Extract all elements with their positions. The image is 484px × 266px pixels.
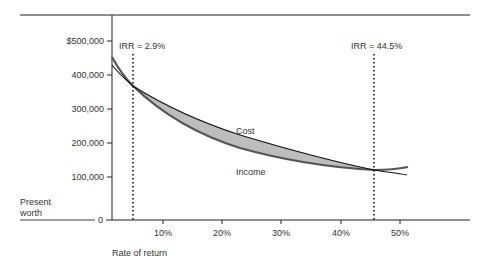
y-tick-label: 400,000 <box>71 70 104 80</box>
x-tick-label: 50% <box>391 228 409 238</box>
irr-low-label: IRR = 2.9% <box>119 41 165 51</box>
x-tick-label: 20% <box>213 228 231 238</box>
income-label: Income <box>236 167 266 177</box>
x-tick-label: 30% <box>272 228 290 238</box>
y-axis-label-line1: Present <box>20 197 52 207</box>
x-ticks <box>163 220 400 224</box>
x-axis-label: Rate of return <box>112 248 167 258</box>
cost-label: Cost <box>236 126 255 136</box>
irr-high-label: IRR = 44.5% <box>351 41 402 51</box>
x-tick-label: 10% <box>154 228 172 238</box>
y-tick-label: 300,000 <box>71 104 104 114</box>
irr-chart: $500,000 400,000 300,000 200,000 100,000… <box>0 0 484 266</box>
y-tick-label: $500,000 <box>66 36 104 46</box>
cost-curve <box>112 65 407 175</box>
y-ticks <box>106 41 112 220</box>
y-tick-label: 100,000 <box>71 172 104 182</box>
y-tick-label: 200,000 <box>71 138 104 148</box>
y-tick-label: 0 <box>98 215 103 225</box>
income-curve <box>112 57 408 170</box>
y-axis-label-line2: worth <box>19 208 42 218</box>
x-tick-label: 40% <box>332 228 350 238</box>
